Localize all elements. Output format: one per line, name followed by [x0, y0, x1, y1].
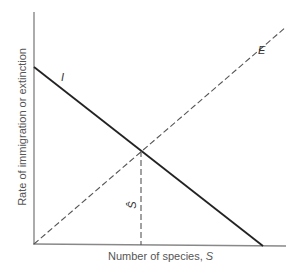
x-axis-label: Number of species, S	[108, 250, 213, 262]
extinction-line	[34, 27, 286, 244]
extinction-label: E	[258, 44, 265, 56]
x-axis-label-text: Number of species,	[108, 250, 206, 262]
equilibrium-label: Ŝ	[126, 201, 138, 208]
x-axis	[33, 244, 286, 246]
plot-area	[0, 0, 303, 268]
immigration-line	[34, 67, 263, 246]
x-axis-variable: S	[206, 250, 213, 262]
y-axis-label: Rate of immigration or extinction	[16, 48, 28, 206]
immigration-label: I	[61, 71, 64, 83]
equilibrium-diagram: Rate of immigration or extinction Number…	[0, 0, 303, 268]
